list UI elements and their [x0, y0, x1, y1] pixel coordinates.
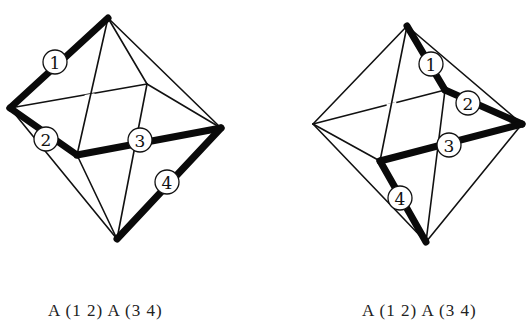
label-number: 2	[41, 130, 52, 150]
right-figure-caption: A (1 2) A (3 4)	[362, 301, 477, 321]
label-number: 4	[162, 173, 173, 193]
hidden-edge-line	[313, 90, 445, 124]
edge-line	[108, 18, 221, 128]
edge-line	[380, 26, 407, 161]
edge-line	[10, 108, 117, 239]
circled-label-2: 2	[456, 91, 480, 115]
label-number: 3	[444, 136, 455, 156]
edge-line	[313, 124, 426, 242]
circled-label-2: 2	[34, 127, 58, 151]
edge-gap	[387, 105, 397, 107]
left-figure-caption: A (1 2) A (3 4)	[48, 301, 163, 321]
label-number: 2	[463, 94, 474, 114]
edge-line	[147, 84, 221, 128]
edge-line	[426, 90, 445, 242]
edge-line	[313, 124, 380, 161]
circled-label-4: 4	[388, 186, 412, 210]
circled-label-1: 1	[43, 50, 67, 74]
left-octahedron-figure: 1234	[10, 18, 221, 239]
right-octahedron-figure: 1234	[313, 26, 522, 242]
label-number: 1	[50, 53, 61, 73]
label-number: 1	[426, 55, 437, 75]
circled-label-3: 3	[128, 128, 152, 152]
circled-label-3: 3	[437, 133, 461, 157]
label-number: 4	[395, 189, 406, 209]
circled-label-1: 1	[419, 52, 443, 76]
label-number: 3	[135, 131, 146, 151]
circled-label-4: 4	[155, 170, 179, 194]
edge-line	[313, 26, 407, 124]
